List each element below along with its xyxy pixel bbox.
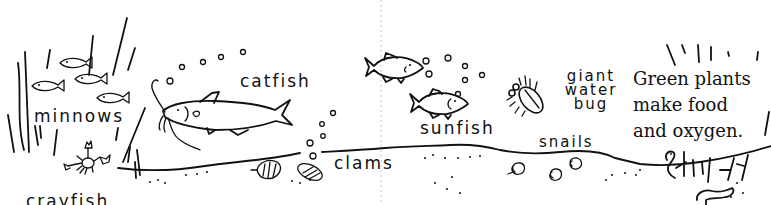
worm bbox=[697, 188, 733, 205]
caption-green-plants: Green plants make food and oxygen. bbox=[633, 66, 763, 144]
snail bbox=[550, 169, 562, 180]
label-crayfish: crayfish bbox=[26, 193, 109, 205]
clam bbox=[251, 160, 280, 178]
left-plants bbox=[8, 18, 145, 178]
worms bbox=[666, 152, 733, 205]
catfish-bubbles bbox=[167, 50, 246, 85]
clams bbox=[251, 160, 325, 184]
snail bbox=[570, 158, 581, 169]
minnow bbox=[97, 92, 129, 103]
crayfish bbox=[64, 141, 110, 174]
minnow bbox=[60, 57, 92, 68]
sunfish bbox=[365, 53, 423, 83]
label-snails: snails bbox=[539, 135, 594, 150]
label-clams: clams bbox=[334, 155, 394, 172]
snail bbox=[508, 163, 525, 175]
label-minnows: minnows bbox=[34, 108, 124, 125]
minnows bbox=[32, 57, 129, 103]
snails bbox=[508, 158, 582, 180]
minnow bbox=[75, 73, 107, 84]
giant-water-bug bbox=[507, 76, 548, 117]
label-sunfish: sunfish bbox=[420, 120, 495, 137]
pond-diagram: minnows catfish crayfish clams sunfish g… bbox=[0, 0, 771, 205]
label-catfish: catfish bbox=[240, 73, 311, 90]
minnow bbox=[32, 80, 64, 91]
sediment-dots bbox=[149, 154, 744, 198]
sunfish bbox=[410, 89, 468, 119]
label-giant-water-bug: giant water bug bbox=[556, 69, 626, 111]
